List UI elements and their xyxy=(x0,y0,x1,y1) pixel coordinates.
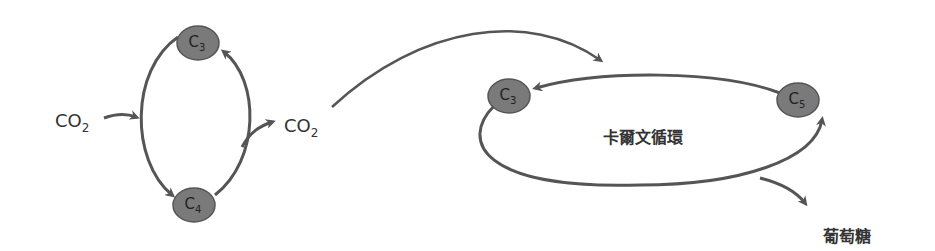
c4-calvin-diagram: CO2 CO2 C3 C4 C3 C5 卡爾文循環 葡萄糖 xyxy=(0,0,935,251)
left-arc-arrow xyxy=(141,37,178,195)
c5-calvin-label: C5 xyxy=(789,90,806,110)
calvin-cycle-label: 卡爾文循環 xyxy=(603,124,683,148)
glucose-label: 葡萄糖 xyxy=(823,223,871,247)
co2-input-label: CO2 xyxy=(55,110,89,135)
co2-transfer-arrow xyxy=(332,31,600,107)
c4-left-label: C4 xyxy=(185,195,202,215)
co2-output-label: CO2 xyxy=(284,115,318,140)
co2-input-arrow xyxy=(104,115,136,119)
c3-left-label: C3 xyxy=(189,33,206,53)
glucose-arrow xyxy=(760,178,805,203)
diagram-lines xyxy=(0,0,935,251)
c3-calvin-label: C3 xyxy=(500,86,517,106)
right-arc-arrow xyxy=(215,52,250,195)
calvin-top-arrow xyxy=(536,75,780,93)
